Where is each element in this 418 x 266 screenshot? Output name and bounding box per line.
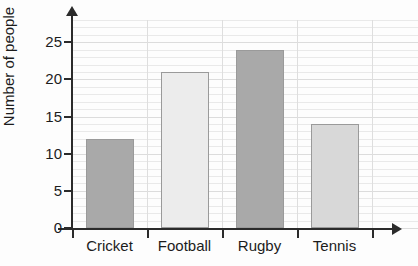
category-separator xyxy=(372,20,373,228)
bar xyxy=(236,50,284,228)
gridline xyxy=(72,42,418,43)
y-axis-tick xyxy=(64,190,73,192)
category-separator xyxy=(297,20,298,228)
x-axis-line xyxy=(58,228,394,230)
y-axis-tick-label: 15 xyxy=(22,109,62,124)
category-separator xyxy=(222,20,223,228)
x-axis-tick xyxy=(372,229,374,238)
y-axis-tick-label: 5 xyxy=(22,183,62,198)
gridline xyxy=(72,35,418,36)
y-axis-tick xyxy=(64,153,73,155)
gridline xyxy=(72,20,418,21)
bar xyxy=(161,72,209,228)
y-axis-tick-label: 10 xyxy=(22,146,62,161)
x-axis-arrow-icon xyxy=(392,223,402,235)
x-axis-tick xyxy=(72,229,74,238)
y-axis-line xyxy=(71,14,73,230)
gridline xyxy=(72,27,418,28)
bar xyxy=(311,124,359,228)
x-axis-tick xyxy=(222,229,224,238)
y-axis-tick-label: 20 xyxy=(22,71,62,86)
x-axis-category-label: Tennis xyxy=(297,238,372,253)
bar-chart: Number of people 0510152025 CricketFootb… xyxy=(0,0,418,266)
category-separator xyxy=(147,20,148,228)
x-axis-tick xyxy=(297,229,299,238)
y-axis-tick-label: 0 xyxy=(22,220,62,235)
y-axis-tick xyxy=(64,116,73,118)
x-axis-tick xyxy=(147,229,149,238)
bar xyxy=(86,139,134,228)
x-axis-category-label: Rugby xyxy=(222,238,297,253)
y-axis-tick xyxy=(64,78,73,80)
y-axis-tick-label: 25 xyxy=(22,34,62,49)
y-axis-tick xyxy=(64,41,73,43)
y-axis-title: Number of people xyxy=(0,0,17,167)
x-axis-category-label: Football xyxy=(147,238,222,253)
x-axis-category-label: Cricket xyxy=(72,238,147,253)
